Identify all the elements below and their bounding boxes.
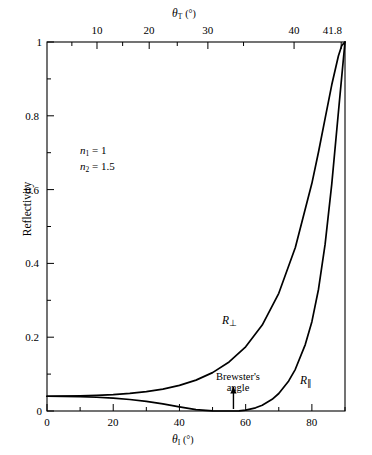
left-tick-label-0.2: 0.2 [25,332,39,343]
bottom-axis-title: θI (°) [172,434,194,447]
reflectivity-figure: θT (°) θI (°) Reflectivity 020406080 00.… [0,0,372,455]
bottom-tick-label-80: 80 [306,417,317,428]
top-tick-label-30: 30 [202,25,213,36]
data-curves [47,42,345,411]
brewster-line-1: Brewster's [216,371,260,382]
bottom-tick-label-0: 0 [44,417,50,428]
left-tick-label-1: 1 [36,37,42,48]
bottom-tick-label-20: 20 [108,417,119,428]
top-tick-label-10: 10 [91,25,102,36]
brewster-angle-label: Brewster's angle [199,372,277,393]
curve-label-r-parallel: R∥ [300,375,312,388]
y-axis-title-wrapper: Reflectivity [17,149,35,269]
curve-label-r-perpendicular: R⊥ [222,315,237,328]
left-tick-label-0: 0 [36,406,42,417]
top-axis-ticks [72,42,341,49]
bottom-tick-label-60: 60 [240,417,251,428]
brewster-line-2: angle [227,382,250,393]
left-axis-ticks [47,42,54,411]
plot-canvas [0,0,372,455]
left-tick-label-0.8: 0.8 [25,111,39,122]
top-tick-label-20: 20 [144,25,155,36]
left-tick-label-0.4: 0.4 [25,258,39,269]
curve-r-perpendicular [47,42,345,396]
annotation-n2: n2 = 1.5 [80,161,115,174]
annotation-n1: n1 = 1 [80,145,106,158]
bottom-tick-label-40: 40 [174,417,185,428]
left-tick-label-0.6: 0.6 [25,185,39,196]
top-tick-label-41.8: 41.8 [323,25,342,36]
top-axis-title: θT (°) [172,8,196,21]
top-tick-label-40: 40 [288,25,299,36]
